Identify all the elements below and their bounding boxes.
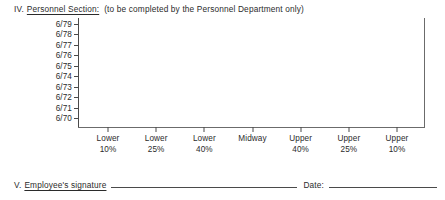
section-v-number: V. <box>14 180 21 190</box>
section-v-signature-row: V. Employee's signature Date: <box>14 180 437 190</box>
section-iv-title: Personnel Section: <box>27 4 99 14</box>
y-axis-tick-label: 6/77 <box>56 40 72 49</box>
y-axis-tick-label: 6/73 <box>56 82 72 91</box>
x-axis-tick-mark <box>252 127 253 132</box>
y-axis-tick-label: 6/75 <box>56 61 72 70</box>
y-axis-tick-label: 6/76 <box>56 51 72 60</box>
x-axis-tick-mark <box>204 127 205 132</box>
y-axis-tick-mark <box>74 108 79 109</box>
x-axis-tick-mark <box>348 127 349 132</box>
x-axis-tick-mark <box>300 127 301 132</box>
employee-signature-label: Employee's signature <box>24 180 106 190</box>
x-axis-tick-label: Lower10% <box>97 134 120 155</box>
y-axis-tick-mark <box>74 45 79 46</box>
x-axis-tick-label: Lower40% <box>193 134 216 155</box>
date-input-line[interactable] <box>329 187 437 188</box>
y-axis-tick-mark <box>74 55 79 56</box>
y-axis-tick-label: 6/79 <box>56 20 72 29</box>
y-axis-tick-mark <box>74 24 79 25</box>
date-label: Date: <box>303 180 324 190</box>
x-axis-tick-label: Lower25% <box>145 134 168 155</box>
x-axis-tick-label: Midway <box>238 134 266 145</box>
section-iv-heading: IV.Personnel Section:(to be completed by… <box>14 4 304 14</box>
x-axis-tick-label: Upper25% <box>337 134 360 155</box>
y-axis-tick-label: 6/74 <box>56 72 72 81</box>
x-axis-tick-label: Upper10% <box>386 134 409 155</box>
y-axis-tick-mark <box>74 118 79 119</box>
y-axis-tick-mark <box>74 97 79 98</box>
x-axis-tick-mark <box>156 127 157 132</box>
chart-right-frame-line <box>424 18 425 128</box>
y-axis-tick-mark <box>74 87 79 88</box>
section-iv-note: (to be completed by the Personnel Depart… <box>104 4 304 14</box>
y-axis-tick-mark <box>74 66 79 67</box>
y-axis-tick-label: 6/72 <box>56 93 72 102</box>
section-iv-number: IV. <box>14 4 24 14</box>
personnel-progression-chart: 6/796/786/776/766/756/746/736/726/716/70… <box>78 18 425 128</box>
x-axis-tick-mark <box>397 127 398 132</box>
y-axis-tick-label: 6/78 <box>56 30 72 39</box>
y-axis-tick-label: 6/70 <box>56 114 72 123</box>
x-axis-tick-mark <box>108 127 109 132</box>
x-axis-tick-label: Upper40% <box>289 134 312 155</box>
y-axis-tick-mark <box>74 34 79 35</box>
y-axis-tick-label: 6/71 <box>56 103 72 112</box>
y-axis-tick-mark <box>74 76 79 77</box>
signature-input-line[interactable] <box>111 187 297 188</box>
